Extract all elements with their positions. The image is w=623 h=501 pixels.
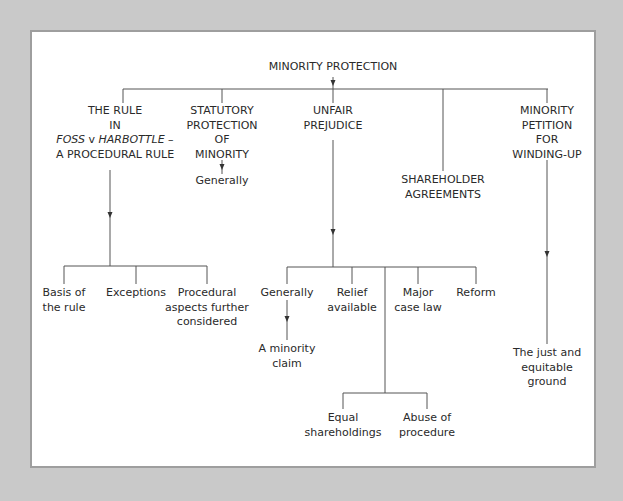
leaf-statutory-generally: Generally xyxy=(196,174,249,189)
leaf-basis-of-the-rule: Basis of the rule xyxy=(43,286,86,315)
root-label: MINORITY PROTECTION xyxy=(269,60,398,75)
leaf-label: considered xyxy=(165,315,249,330)
case-versus: v xyxy=(85,133,99,146)
leaf-label: Basis of xyxy=(43,286,86,301)
branch-label-line: PETITION xyxy=(512,119,581,134)
branch-label-line: WINDING-UP xyxy=(512,148,581,163)
leaf-reform: Reform xyxy=(456,286,496,301)
leaf-label: Procedural xyxy=(165,286,249,301)
leaf-equal-shareholdings: Equal shareholdings xyxy=(305,411,382,440)
branch-label-line: FOR xyxy=(512,133,581,148)
leaf-label: A minority xyxy=(259,342,316,357)
leaf-label: procedure xyxy=(399,426,455,441)
leaf-label: the rule xyxy=(43,301,86,316)
leaf-a-minority-claim: A minority claim xyxy=(259,342,316,371)
leaf-label: case law xyxy=(394,301,442,316)
leaf-label: Generally xyxy=(196,174,249,189)
branch-label-line: THE RULE xyxy=(56,104,174,119)
case-party-harbottle: HARBOTTLE xyxy=(98,133,164,146)
leaf-label: aspects further xyxy=(165,301,249,316)
leaf-label: Major xyxy=(394,286,442,301)
branch-minority-petition: MINORITY PETITION FOR WINDING-UP xyxy=(512,104,581,162)
leaf-label: Generally xyxy=(261,286,314,301)
branch-label-line: PREJUDICE xyxy=(304,119,363,134)
case-dash: – xyxy=(165,133,174,146)
leaf-label: The just and xyxy=(513,346,581,361)
leaf-label: claim xyxy=(259,357,316,372)
leaf-major-case-law: Major case law xyxy=(394,286,442,315)
leaf-exceptions: Exceptions xyxy=(106,286,166,301)
branch-foss-v-harbottle: THE RULE IN FOSS v HARBOTTLE – A PROCEDU… xyxy=(56,104,174,162)
leaf-unfair-generally: Generally xyxy=(261,286,314,301)
branch-unfair-prejudice: UNFAIR PREJUDICE xyxy=(304,104,363,133)
leaf-label: Exceptions xyxy=(106,286,166,301)
branch-label-line-case-name: FOSS v HARBOTTLE – xyxy=(56,133,174,148)
branch-label-line: OF xyxy=(186,133,257,148)
branch-label-line: AGREEMENTS xyxy=(401,188,485,203)
branch-shareholder-agreements: SHAREHOLDER AGREEMENTS xyxy=(401,173,485,202)
leaf-label: shareholdings xyxy=(305,426,382,441)
branch-label-line: IN xyxy=(56,119,174,134)
leaf-label: Equal xyxy=(305,411,382,426)
leaf-procedural-aspects: Procedural aspects further considered xyxy=(165,286,249,330)
case-party-foss: FOSS xyxy=(56,133,85,146)
branch-label-line: MINORITY xyxy=(186,148,257,163)
leaf-label: equitable xyxy=(513,361,581,376)
leaf-label: Abuse of xyxy=(399,411,455,426)
branch-label-line: UNFAIR xyxy=(304,104,363,119)
branch-statutory-protection: STATUTORY PROTECTION OF MINORITY xyxy=(186,104,257,162)
branch-label-line: A PROCEDURAL RULE xyxy=(56,148,174,163)
root-node-minority-protection: MINORITY PROTECTION xyxy=(269,60,398,75)
leaf-label: Relief xyxy=(327,286,377,301)
leaf-label: Reform xyxy=(456,286,496,301)
leaf-abuse-of-procedure: Abuse of procedure xyxy=(399,411,455,440)
branch-label-line: SHAREHOLDER xyxy=(401,173,485,188)
leaf-label: ground xyxy=(513,375,581,390)
leaf-label: available xyxy=(327,301,377,316)
branch-label-line: MINORITY xyxy=(512,104,581,119)
leaf-relief-available: Relief available xyxy=(327,286,377,315)
branch-label-line: PROTECTION xyxy=(186,119,257,134)
branch-label-line: STATUTORY xyxy=(186,104,257,119)
leaf-just-and-equitable-ground: The just and equitable ground xyxy=(513,346,581,390)
